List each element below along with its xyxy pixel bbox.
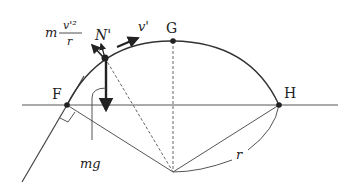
label-F: F [52,86,62,102]
point-G [170,38,176,44]
radius-label: r [236,147,243,162]
normal-label: N' [94,27,111,43]
point-F [64,102,70,108]
centripetal-denominator: r [67,35,73,48]
angle-arc [92,88,106,140]
physics-diagram: r mg F G H N' v' m v'² r [0,0,360,194]
point-particle [102,55,109,62]
velocity-label: v' [138,19,149,34]
gravity-label: mg [80,156,101,171]
centripetal-numerator: v'² [63,19,77,32]
radius-P-dashed [105,58,173,172]
point-H [276,102,282,108]
centripetal-prefix: m [45,25,57,40]
label-G: G [166,20,177,36]
label-H: H [284,85,296,101]
